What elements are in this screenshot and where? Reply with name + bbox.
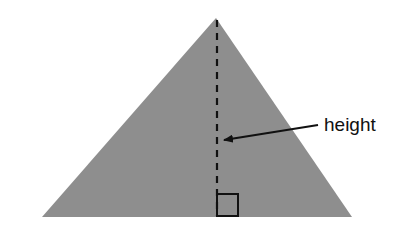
triangle-height-diagram: height (0, 0, 400, 228)
height-label: height (324, 114, 376, 135)
triangle (42, 18, 352, 217)
